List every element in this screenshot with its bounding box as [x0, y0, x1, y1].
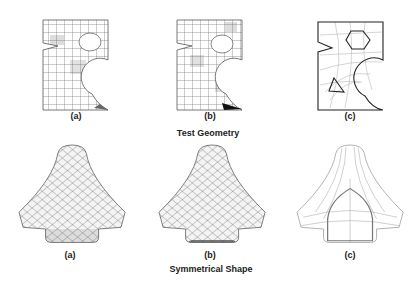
top-b-label: (b)	[190, 111, 230, 121]
bottom-a-label: (a)	[50, 250, 90, 260]
bottom-c-label: (c)	[330, 250, 370, 260]
bottom-b-label: (b)	[190, 250, 230, 260]
top-row-title: Test Geometry	[128, 128, 288, 138]
top-b-mesh	[177, 20, 242, 110]
top-a-label: (a)	[56, 111, 96, 121]
bottom-b-mesh	[159, 145, 265, 242]
bottom-row-title: Symmetrical Shape	[131, 264, 291, 274]
top-c-geometry	[318, 22, 383, 110]
bottom-c-frame	[297, 145, 403, 242]
bottom-a-mesh	[19, 145, 125, 242]
top-a-mesh	[43, 20, 108, 110]
top-c-label: (c)	[330, 111, 370, 121]
figure-canvas	[0, 0, 417, 287]
